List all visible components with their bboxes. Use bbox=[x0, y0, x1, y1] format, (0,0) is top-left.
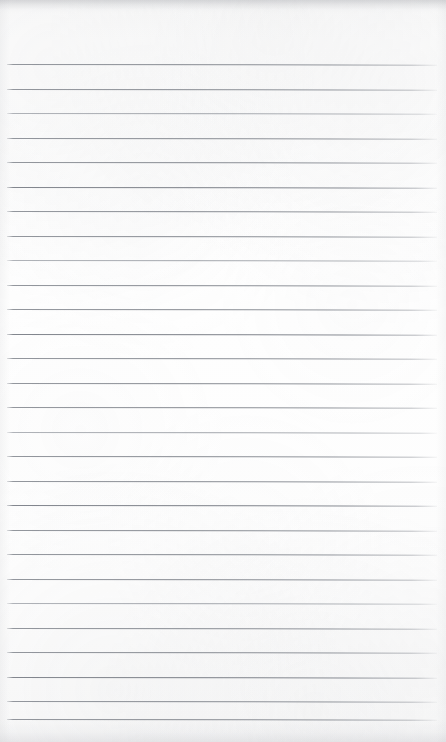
ruled-line bbox=[7, 285, 437, 287]
ruled-line bbox=[7, 211, 437, 213]
ruled-line bbox=[7, 554, 437, 556]
ruled-line bbox=[7, 652, 437, 654]
ruled-line bbox=[7, 309, 437, 311]
ruled-line bbox=[7, 603, 437, 605]
ruled-line bbox=[7, 719, 437, 721]
ruled-line bbox=[7, 456, 437, 458]
ruled-line bbox=[7, 701, 437, 703]
ruled-line bbox=[7, 64, 437, 66]
ruled-line bbox=[7, 407, 437, 409]
ruled-line bbox=[7, 138, 437, 140]
ruled-line bbox=[7, 187, 437, 189]
ruled-line bbox=[7, 113, 437, 115]
ruled-lines-layer bbox=[0, 0, 446, 742]
ruled-line bbox=[7, 432, 437, 434]
ruled-line bbox=[7, 334, 437, 336]
ruled-line bbox=[7, 236, 437, 238]
ruled-line bbox=[7, 162, 437, 164]
ruled-line bbox=[7, 260, 437, 262]
ruled-line bbox=[7, 481, 437, 483]
ruled-line bbox=[7, 628, 437, 630]
ruled-line bbox=[7, 505, 437, 507]
ruled-line bbox=[7, 383, 437, 385]
ruled-line bbox=[7, 677, 437, 679]
ruled-line bbox=[7, 358, 437, 360]
scanned-page bbox=[0, 0, 446, 742]
ruled-line bbox=[7, 530, 437, 532]
ruled-line bbox=[7, 89, 437, 91]
ruled-line bbox=[7, 579, 437, 581]
